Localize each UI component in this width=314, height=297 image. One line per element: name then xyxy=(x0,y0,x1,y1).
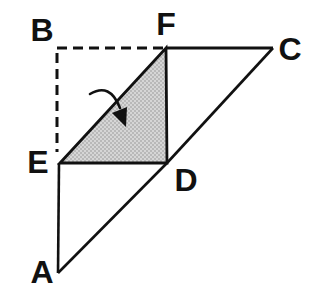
geometry-figure: B F C E D A xyxy=(0,0,314,297)
edge-d-a xyxy=(58,163,167,273)
vertex-label-c: C xyxy=(278,31,301,67)
vertex-label-b: B xyxy=(30,12,53,48)
vertex-label-a: A xyxy=(30,254,53,290)
vertex-label-e: E xyxy=(27,144,48,180)
figure-canvas: B F C E D A xyxy=(0,0,314,297)
vertex-label-f: F xyxy=(156,6,176,42)
edge-c-d xyxy=(167,48,273,163)
vertex-label-d: D xyxy=(174,162,197,198)
edge-e-a xyxy=(58,163,59,273)
shaded-triangle-efd xyxy=(60,48,167,163)
